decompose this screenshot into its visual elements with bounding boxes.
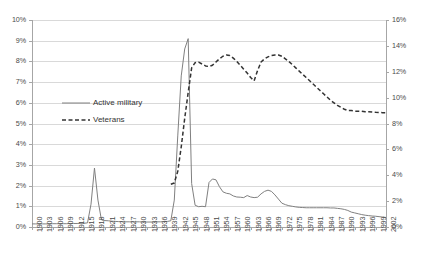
series-line-active-military bbox=[32, 39, 386, 224]
x-axis-tick-label: 1951 bbox=[212, 217, 221, 232]
x-axis-tick-label: 1906 bbox=[56, 217, 65, 232]
x-axis-tick-label: 1945 bbox=[191, 217, 200, 232]
y-axis-right-tick-label: 2% bbox=[392, 197, 402, 204]
x-axis-tick-label: 1948 bbox=[202, 217, 211, 232]
y-axis-right-tick-label: 10% bbox=[392, 94, 406, 101]
x-axis-tick-label: 1927 bbox=[129, 217, 138, 232]
legend-label-veterans: Veterans bbox=[93, 115, 125, 124]
y-axis-left-tick-label: 5% bbox=[0, 120, 26, 127]
y-axis-left-tick-label: 0% bbox=[0, 223, 26, 230]
x-axis-tick-label: 1993 bbox=[358, 217, 367, 232]
x-axis-tick-label: 1924 bbox=[118, 217, 127, 232]
x-axis-tick-label: 1963 bbox=[254, 217, 263, 232]
x-axis-tick-label: 1939 bbox=[170, 217, 179, 232]
x-axis-tick-label: 1912 bbox=[77, 217, 86, 232]
x-axis-tick-label: 1900 bbox=[35, 217, 44, 232]
legend-label-active-military: Active military bbox=[93, 98, 142, 107]
y-axis-right-tick-label: 6% bbox=[392, 145, 402, 152]
y-axis-left-tick-label: 8% bbox=[0, 57, 26, 64]
x-axis-tick-label: 2002 bbox=[389, 217, 398, 232]
y-axis-left-tick-label: 7% bbox=[0, 78, 26, 85]
y-axis-left-tick-label: 10% bbox=[0, 16, 26, 23]
x-axis-tick-label: 1918 bbox=[97, 217, 106, 232]
x-axis-tick-label: 1999 bbox=[379, 217, 388, 232]
x-axis-tick-label: 1996 bbox=[368, 217, 377, 232]
y-axis-left-tick-label: 9% bbox=[0, 37, 26, 44]
x-axis-tick-label: 1981 bbox=[316, 217, 325, 232]
y-axis-right-tick-label: 14% bbox=[392, 42, 406, 49]
x-axis-tick-label: 1915 bbox=[87, 217, 96, 232]
chart-container: 0%1%2%3%4%5%6%7%8%9%10%0%2%4%6%8%10%12%1… bbox=[0, 0, 426, 271]
x-axis-tick-label: 1987 bbox=[337, 217, 346, 232]
x-axis-tick-label: 1909 bbox=[66, 217, 75, 232]
x-axis-tick-label: 1975 bbox=[295, 217, 304, 232]
x-axis-tick-label: 1978 bbox=[306, 217, 315, 232]
y-axis-left-tick-label: 6% bbox=[0, 99, 26, 106]
x-axis-tick-label: 1903 bbox=[45, 217, 54, 232]
y-axis-right-tick-label: 8% bbox=[392, 120, 402, 127]
x-axis-tick-label: 1972 bbox=[285, 217, 294, 232]
y-axis-left-tick-label: 3% bbox=[0, 161, 26, 168]
x-axis-tick-label: 1957 bbox=[233, 217, 242, 232]
x-axis-tick-label: 1936 bbox=[160, 217, 169, 232]
x-axis-tick-label: 1954 bbox=[222, 217, 231, 232]
x-axis-tick-label: 1942 bbox=[181, 217, 190, 232]
x-axis-tick-label: 1966 bbox=[264, 217, 273, 232]
x-axis-tick-label: 1984 bbox=[327, 217, 336, 232]
y-axis-left-tick-label: 2% bbox=[0, 182, 26, 189]
y-axis-right-tick-label: 16% bbox=[392, 16, 406, 23]
x-axis-tick-label: 1921 bbox=[108, 217, 117, 232]
x-axis-tick-label: 1990 bbox=[347, 217, 356, 232]
series-line-veterans bbox=[171, 55, 386, 184]
x-axis-tick-label: 1960 bbox=[243, 217, 252, 232]
y-axis-right-tick-label: 4% bbox=[392, 171, 402, 178]
y-axis-right-tick-label: 12% bbox=[392, 68, 406, 75]
y-axis-left-tick-label: 1% bbox=[0, 202, 26, 209]
y-axis-left-tick-label: 4% bbox=[0, 140, 26, 147]
x-axis-tick-label: 1933 bbox=[150, 217, 159, 232]
x-axis-tick-label: 1930 bbox=[139, 217, 148, 232]
x-axis-tick-label: 1969 bbox=[274, 217, 283, 232]
